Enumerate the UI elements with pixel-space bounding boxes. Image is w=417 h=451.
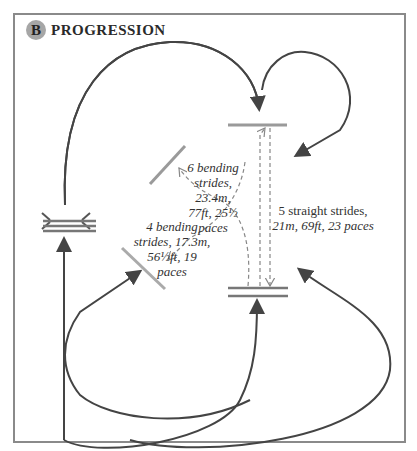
label-five-straight: 5 straight strides, 21m, 69ft, 23 paces bbox=[253, 203, 393, 233]
label-four-bending: 4 bending strides, 17.3m, 56½ft, 19 pace… bbox=[132, 219, 212, 279]
route-path bbox=[64, 42, 390, 448]
pole-bottom-double bbox=[228, 288, 288, 296]
pole-triple-left bbox=[42, 213, 96, 231]
